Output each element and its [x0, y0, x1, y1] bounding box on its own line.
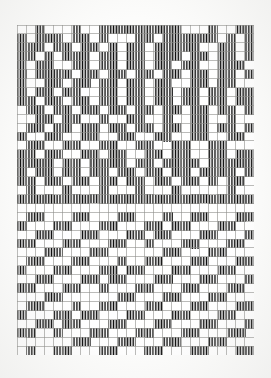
pattern-cell-filled	[172, 266, 181, 275]
pattern-cell-filled	[199, 168, 208, 177]
pattern-cell-filled	[144, 346, 153, 355]
pattern-cell-filled	[17, 79, 26, 88]
pattern-cell-filled	[236, 257, 245, 266]
pattern-cell-filled	[154, 230, 163, 239]
pattern-cell-filled	[190, 105, 199, 114]
pattern-cell-filled	[44, 114, 53, 123]
pattern-cell-filled	[154, 79, 163, 88]
pattern-cell-filled	[163, 52, 172, 61]
pattern-cell-filled	[227, 195, 236, 204]
pattern-cell-filled	[117, 168, 126, 177]
pattern-cell-filled	[17, 328, 26, 337]
pattern-cell-filled	[99, 52, 108, 61]
pattern-cell-filled	[172, 52, 181, 61]
pattern-cell-filled	[154, 96, 163, 105]
pattern-cell-filled	[236, 302, 245, 311]
pattern-cell-filled	[54, 328, 63, 337]
pattern-cell-filled	[26, 52, 35, 61]
pattern-cell-filled	[226, 221, 235, 230]
pattern-cell-filled	[17, 159, 26, 168]
pattern-cell-filled	[245, 168, 254, 177]
pattern-cell-filled	[145, 34, 154, 43]
pattern-cell-filled	[99, 79, 108, 88]
pattern-cell-filled	[145, 141, 154, 150]
pattern-cell-filled	[190, 257, 199, 266]
pattern-cell-filled	[108, 239, 117, 248]
pattern-cell-filled	[72, 52, 81, 61]
pattern-cell-filled	[245, 319, 254, 328]
pattern-cell-filled	[63, 311, 72, 320]
pattern-cell-filled	[190, 159, 199, 168]
pattern-cell-filled	[136, 159, 145, 168]
pattern-cell-filled	[236, 176, 245, 185]
pattern-cell-filled	[44, 79, 53, 88]
pattern-cell-filled	[245, 25, 254, 34]
pattern-cell-filled	[190, 239, 199, 248]
pattern-cell-filled	[17, 61, 26, 70]
pattern-cell-filled	[44, 194, 53, 203]
pattern-cell-filled	[99, 328, 108, 337]
pattern-cell-filled	[245, 195, 254, 204]
pattern-cell-filled	[90, 123, 99, 132]
pattern-cell-filled	[99, 195, 108, 204]
pattern-cell-filled	[181, 266, 190, 275]
pattern-cell-filled	[72, 114, 81, 123]
pattern-cell-filled	[218, 106, 227, 115]
pattern-cell-filled	[172, 34, 181, 43]
pattern-cell-filled	[99, 168, 108, 177]
pattern-cell-filled	[199, 78, 208, 87]
pattern-cell-filled	[245, 159, 254, 168]
pattern-cell-filled	[172, 123, 181, 132]
pattern-cell-filled	[181, 159, 190, 168]
pattern-cell-filled	[208, 150, 217, 159]
pattern-cell-filled	[54, 346, 63, 355]
pattern-cell-filled	[72, 141, 81, 150]
pattern-cell-filled	[26, 257, 35, 266]
pattern-cell-filled	[181, 61, 190, 70]
pattern-cell-filled	[108, 177, 117, 186]
pattern-cell-filled	[81, 52, 90, 61]
pattern-cell-filled	[227, 185, 236, 194]
pattern-cell-filled	[208, 230, 217, 239]
pattern-cell-filled	[163, 230, 172, 239]
pattern-cell-filled	[199, 105, 208, 114]
pattern-cell-filled	[63, 123, 72, 132]
pattern-cell-filled	[209, 319, 218, 328]
pattern-cell-filled	[63, 221, 72, 230]
pattern-cell-filled	[17, 195, 26, 204]
pattern-cell-filled	[199, 123, 208, 132]
pattern-cell-filled	[35, 141, 44, 150]
pattern-cell-filled	[218, 337, 227, 346]
pattern-cell-filled	[62, 185, 71, 194]
pattern-cell-filled	[53, 43, 62, 52]
pattern-cell-filled	[17, 221, 26, 230]
pattern-cell-filled	[117, 257, 126, 266]
pattern-cell-filled	[63, 239, 72, 248]
pattern-cell-filled	[54, 195, 63, 204]
pattern-cell-filled	[245, 230, 254, 239]
pattern-cell-filled	[44, 319, 53, 328]
pattern-cell-filled	[62, 88, 71, 97]
pattern-cell-filled	[35, 70, 44, 79]
pattern-cell-filled	[117, 25, 126, 34]
pattern-cell-filled	[26, 283, 35, 292]
pattern-cell-filled	[154, 150, 163, 159]
pattern-cell-filled	[136, 311, 145, 320]
pattern-cell-filled	[108, 70, 117, 79]
pattern-cell-filled	[181, 328, 190, 337]
pattern-cell-filled	[99, 346, 108, 355]
pattern-cell-filled	[126, 230, 135, 239]
pattern-cell-filled	[163, 212, 172, 221]
pattern-cell-filled	[163, 195, 172, 204]
pattern-cell-filled	[154, 168, 163, 177]
pattern-cell-filled	[35, 301, 44, 310]
pattern-cell-filled	[245, 150, 254, 159]
pattern-cell-filled	[208, 96, 217, 105]
pattern-cell-filled	[127, 337, 136, 346]
pattern-cell-filled	[163, 132, 172, 141]
pattern-cell-filled	[26, 123, 35, 132]
pattern-cell-filled	[44, 132, 53, 141]
pattern-cell-filled	[218, 293, 227, 302]
pattern-cell-filled	[135, 186, 144, 195]
pattern-cell-filled	[72, 25, 81, 34]
